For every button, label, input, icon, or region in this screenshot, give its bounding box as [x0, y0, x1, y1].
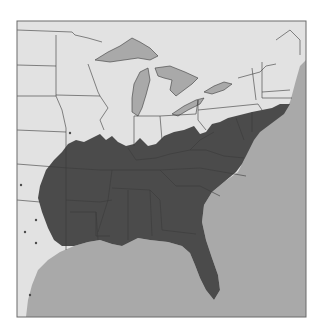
range-map [0, 0, 324, 336]
map-svg [0, 0, 324, 336]
